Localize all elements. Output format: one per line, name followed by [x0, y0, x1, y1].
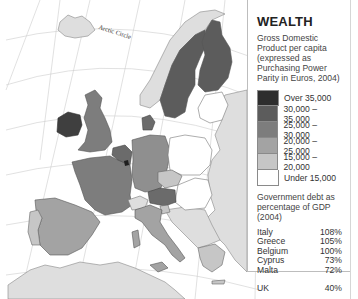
debt-title: Government debt as percentage of GDP (20… — [257, 192, 344, 222]
legend-swatch — [257, 154, 278, 170]
debt-row: Malta72% — [257, 266, 344, 275]
debt-value: 40% — [325, 284, 342, 293]
debt-value: 72% — [325, 266, 342, 275]
page-margin — [350, 0, 358, 299]
legend-swatch — [257, 170, 279, 186]
legend-item: 15,000 – 20,000 — [257, 154, 344, 170]
debt-table: Italy108% Greece105% Belgium100% Cyprus7… — [257, 228, 344, 293]
debt-row-uk: UK40% — [257, 284, 344, 293]
debt-country: Malta — [257, 266, 278, 275]
region-poland — [168, 135, 212, 175]
legend-swatch — [257, 122, 278, 138]
legend-item: Under 15,000 — [257, 170, 344, 186]
legend-subtitle: Gross Domestic Product per capita (expre… — [257, 33, 344, 83]
debt-country: UK — [257, 284, 269, 293]
legend-title: WEALTH — [257, 14, 344, 29]
region-crete — [212, 280, 225, 284]
legend-label: 15,000 – 20,000 — [283, 152, 344, 172]
legend-label: Under 15,000 — [284, 173, 336, 183]
legend-swatch — [257, 138, 278, 154]
legend-swatch — [257, 106, 278, 122]
legend-swatch — [257, 90, 279, 106]
legend-label: Over 35,000 — [284, 93, 331, 103]
region-austria — [148, 188, 176, 206]
legend-panel: WEALTH Gross Domestic Product per capita… — [247, 0, 350, 272]
legend-classes: Over 35,000 30,000 – 35,000 25,000 – 30,… — [257, 90, 344, 186]
